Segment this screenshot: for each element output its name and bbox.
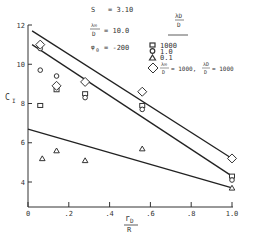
x-tick-label: 0: [26, 210, 30, 218]
legend-combo-den1: D: [162, 69, 165, 75]
chart: 46810120.2.4.6.81.0 C I r D R S = 3.10 λ…: [0, 0, 255, 232]
y-axis-label-sub: I: [12, 97, 16, 104]
legend-square-icon: [150, 43, 155, 47]
parameters-block: S = 3.10 λ∞ D = 10.0 φ 0 = -200: [90, 6, 133, 53]
point-circle: [38, 68, 43, 73]
point-circle: [83, 95, 88, 100]
y-tick-label: 12: [17, 22, 25, 30]
x-tick-label: .6: [146, 210, 154, 218]
legend-combo-eq2: = 1000: [212, 65, 234, 72]
fit-lines: [28, 31, 232, 188]
y-axis-label: C: [5, 93, 10, 102]
legend-combo-lambdaD: λD: [203, 61, 209, 67]
legend-circle-icon: [150, 49, 155, 54]
point-circle: [230, 178, 235, 183]
lambda-value: = 10.0: [104, 27, 129, 35]
legend-combo-den2: D: [204, 69, 207, 75]
phi-sub: 0: [96, 47, 99, 53]
y-tick-label: 6: [21, 139, 25, 147]
point-triangle: [39, 156, 45, 161]
point-triangle: [54, 148, 60, 153]
legend-diamond-icon: [148, 63, 158, 73]
legend-title-num: λD: [175, 12, 183, 19]
x-tick-label: .2: [65, 210, 73, 218]
x-tick-label: 1.0: [226, 210, 239, 218]
point-diamond: [138, 87, 147, 96]
legend-combo-lambda: λ∞: [161, 61, 167, 67]
phi-label: φ: [91, 43, 95, 51]
y-tick-label: 10: [17, 61, 25, 69]
s-label: S: [91, 6, 95, 14]
lambda-label: λ∞: [91, 22, 97, 28]
point-triangle: [82, 158, 88, 163]
y-tick-label: 4: [21, 179, 25, 187]
point-diamond: [81, 77, 90, 86]
x-axis-label-den: R: [127, 226, 132, 232]
x-tick-label: .8: [187, 210, 195, 218]
point-square: [38, 103, 43, 107]
s-value: = 3.10: [108, 6, 133, 14]
legend: λD D 1000 1.0 0.1 λ∞ D = 1000, λD D = 10…: [148, 12, 234, 75]
legend-combo-eq1: = 1000,: [171, 65, 196, 72]
point-diamond: [52, 81, 61, 90]
y-tick-label: 8: [21, 100, 25, 108]
x-tick-label: .4: [105, 210, 113, 218]
point-diamond: [228, 154, 237, 163]
fit-line: [32, 45, 232, 176]
x-axis-label-num-sub: D: [130, 217, 134, 224]
point-circle: [54, 74, 59, 79]
phi-value: = -200: [104, 44, 129, 52]
legend-triangle-icon: [150, 55, 156, 60]
point-triangle: [139, 146, 145, 151]
fit-line: [28, 129, 232, 188]
lambda-den: D: [92, 30, 96, 37]
point-circle: [140, 107, 145, 112]
point-triangle: [229, 185, 235, 190]
legend-title-den: D: [177, 21, 181, 28]
